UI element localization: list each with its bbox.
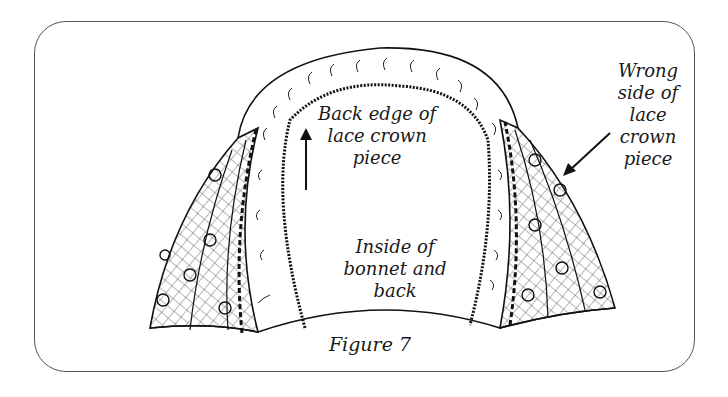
label-line: piece xyxy=(608,148,688,170)
label-back-edge: Back edge of lace crown piece xyxy=(318,103,436,169)
label-line: Inside of xyxy=(320,236,470,258)
label-inside: Inside of bonnet and back xyxy=(320,236,470,302)
arrow-diagonal-icon xyxy=(563,133,610,176)
label-line: back xyxy=(320,280,470,302)
arrow-up-icon xyxy=(300,128,312,190)
label-line: piece xyxy=(318,147,436,169)
label-line: lace crown xyxy=(318,125,436,147)
figure-caption: Figure 7 xyxy=(320,333,420,355)
label-line: crown xyxy=(608,126,688,148)
label-line: lace xyxy=(608,104,688,126)
label-line: Wrong xyxy=(608,60,688,82)
label-wrong-side: Wrong side of lace crown piece xyxy=(608,60,688,170)
label-line: side of xyxy=(608,82,688,104)
label-line: Back edge of xyxy=(318,103,436,125)
label-line: bonnet and xyxy=(320,258,470,280)
